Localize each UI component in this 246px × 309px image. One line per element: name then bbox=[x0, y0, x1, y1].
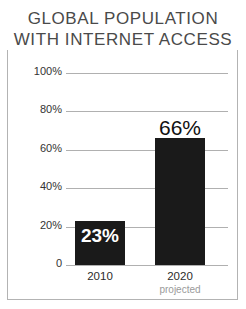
axis-baseline bbox=[66, 265, 228, 266]
chart-title-line-2: WITH INTERNET ACCESS bbox=[0, 29, 246, 50]
y-axis-tick-label-0: 0 bbox=[56, 257, 62, 269]
chart-figure: GLOBAL POPULATION WITH INTERNET ACCESS 1… bbox=[0, 0, 246, 309]
bar-value-label-2020: 66% bbox=[155, 116, 205, 140]
y-axis-tick-label-60: 60% bbox=[40, 142, 62, 154]
x-axis-label-2020: 2020 projected bbox=[155, 269, 205, 296]
gridline-80 bbox=[66, 111, 228, 112]
gridline-100 bbox=[66, 73, 228, 74]
x-axis-label-2010: 2010 bbox=[75, 269, 125, 283]
bar-2020[interactable] bbox=[155, 138, 205, 265]
y-axis-tick-label-20: 20% bbox=[40, 219, 62, 231]
chart-title: GLOBAL POPULATION WITH INTERNET ACCESS bbox=[0, 8, 246, 50]
y-axis-tick-label-100: 100% bbox=[34, 65, 62, 77]
y-axis-tick-label-80: 80% bbox=[40, 103, 62, 115]
chart-title-line-1: GLOBAL POPULATION bbox=[0, 8, 246, 29]
bar-value-label-2010: 23% bbox=[75, 225, 125, 247]
bar-2010[interactable]: 23% bbox=[75, 221, 125, 265]
x-axis-label-2010-name: 2010 bbox=[75, 269, 125, 283]
y-axis-tick-label-40: 40% bbox=[40, 180, 62, 192]
x-axis-label-2020-sublabel: projected bbox=[155, 283, 205, 296]
x-axis-label-2020-name: 2020 bbox=[155, 269, 205, 283]
